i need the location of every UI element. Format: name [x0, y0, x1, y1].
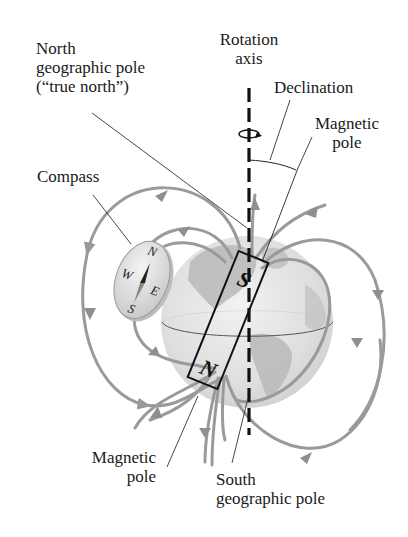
label-line: North — [36, 39, 145, 58]
label-line: Magnetic — [300, 114, 394, 133]
rotation-axis-label: Rotation axis — [203, 30, 295, 68]
label-line: Magnetic — [60, 448, 156, 467]
label-line: geographic pole — [36, 58, 145, 77]
north-geographic-pole-label: North geographic pole (“true north”) — [36, 39, 145, 96]
declination-label: Declination — [274, 78, 353, 97]
label-line: (“true north”) — [36, 77, 145, 96]
label-line: axis — [203, 49, 295, 68]
earth-globe — [161, 236, 333, 408]
declination-arc — [249, 160, 296, 170]
label-line: South — [216, 470, 325, 489]
label-line: pole — [300, 133, 394, 152]
label-line: Rotation — [203, 30, 295, 49]
magnetic-pole-top-label: Magnetic pole — [300, 114, 394, 152]
south-geographic-pole-label: South geographic pole — [216, 470, 325, 508]
compass-label: Compass — [37, 167, 99, 186]
label-line: geographic pole — [216, 489, 325, 508]
label-line: pole — [60, 467, 156, 486]
magnetic-pole-bottom-label: Magnetic pole — [60, 448, 156, 486]
